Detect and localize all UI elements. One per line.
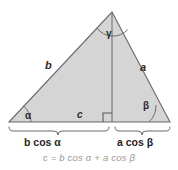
side-label-a: a [140,62,146,73]
side-label-c: c [77,110,83,120]
angle-label-beta: β [143,101,149,111]
left-segment-brace [9,127,109,135]
equation-text: c = b cos α + a cos β [0,152,178,163]
angle-label-alpha: α [25,111,31,121]
angle-label-gamma: γ [106,29,112,39]
segment-label-a-cos-beta: a cos β [117,137,153,148]
segment-label-b-cos-alpha: b cos α [24,137,61,148]
right-segment-brace [115,127,170,135]
side-label-b: b [45,60,52,71]
law-of-cosines-diagram: b a c α β γ b cos α a cos β c = b cos α … [0,0,178,170]
